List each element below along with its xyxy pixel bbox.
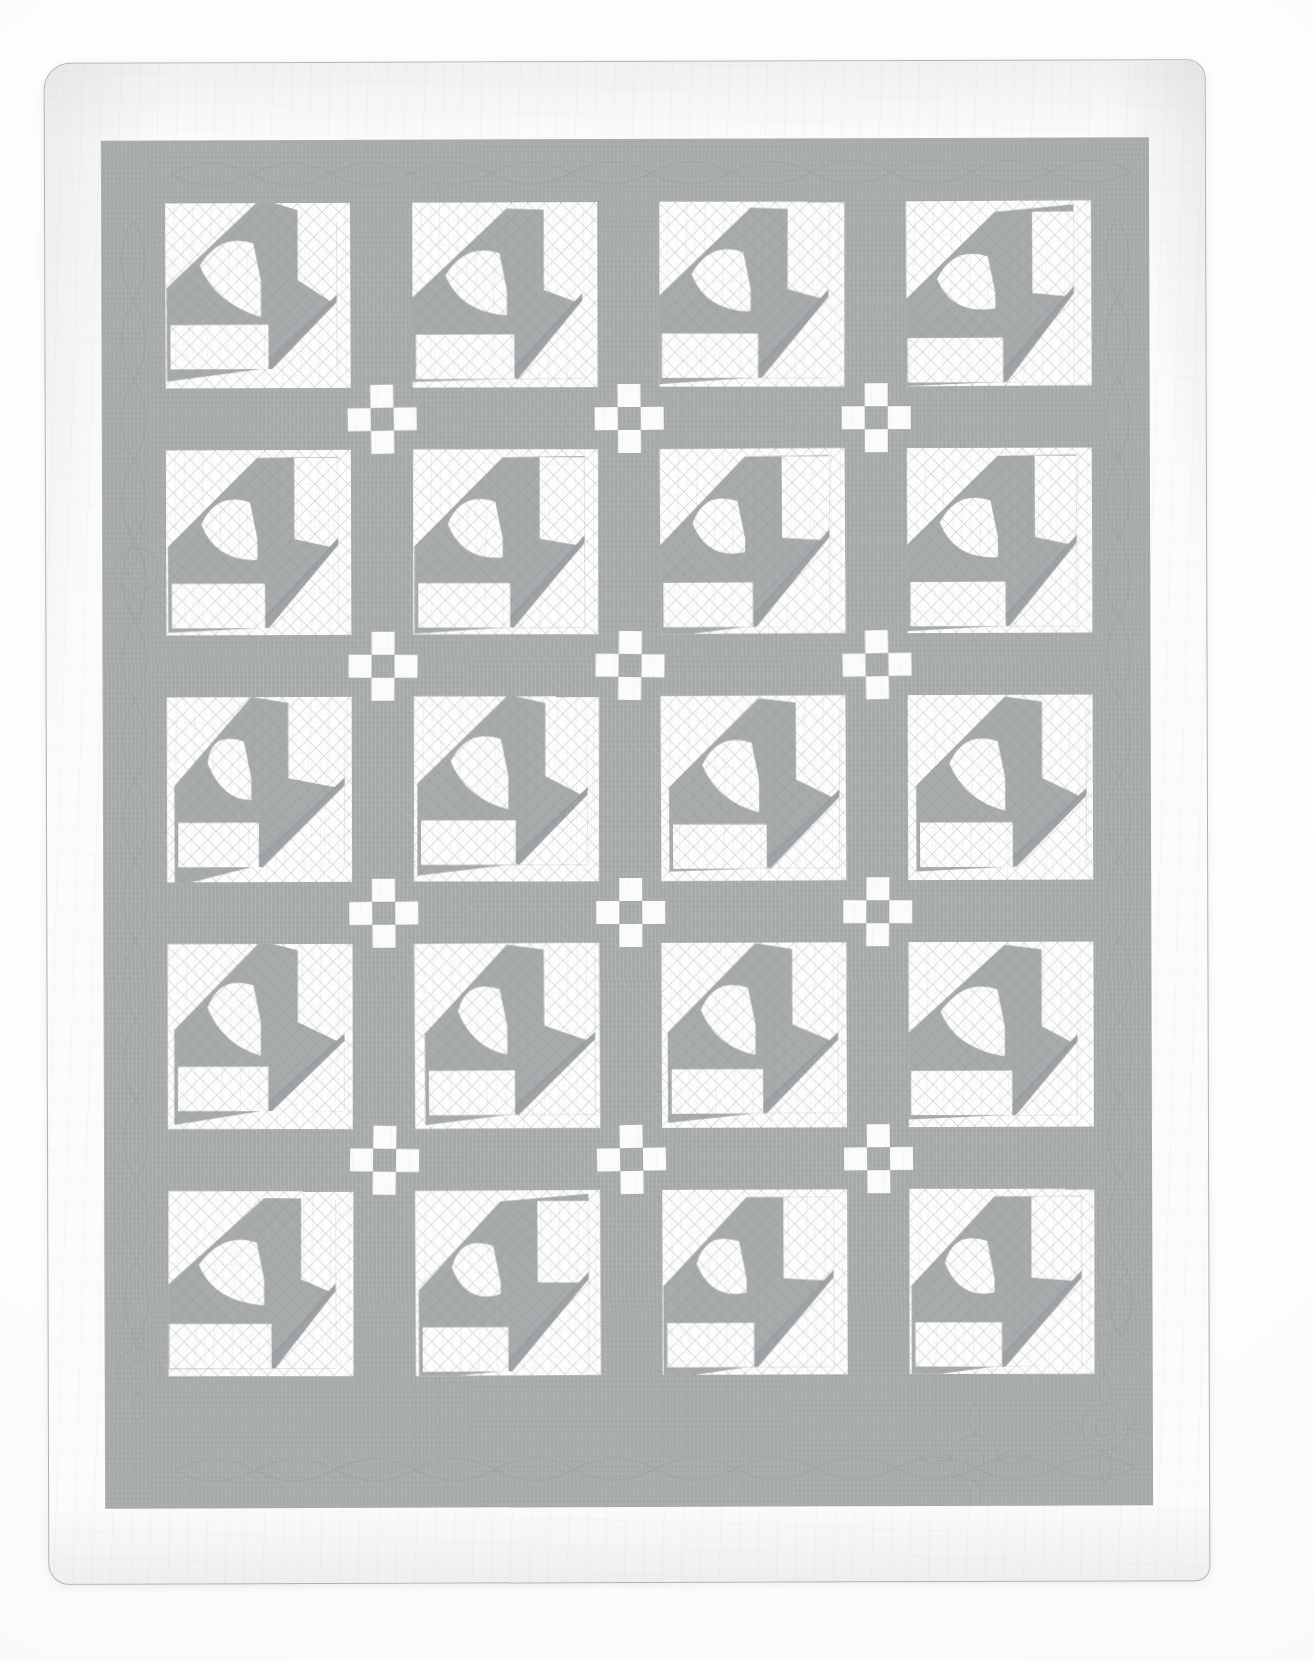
patch-top xyxy=(370,384,393,407)
patch-right xyxy=(395,1148,418,1171)
patch-top xyxy=(864,383,887,406)
white-foot-bar xyxy=(429,1070,515,1115)
basket-motif xyxy=(906,200,1092,386)
basket-block xyxy=(662,1189,848,1375)
patch-bottom xyxy=(864,429,887,452)
patch-left xyxy=(596,901,619,924)
basket-motif xyxy=(660,695,846,881)
patch-right xyxy=(889,1146,912,1169)
patch-bottom xyxy=(866,923,889,946)
basket-block xyxy=(906,200,1092,386)
basket-motif xyxy=(660,448,846,634)
basket-block xyxy=(167,697,352,882)
basket-block xyxy=(168,944,353,1129)
patch-left xyxy=(347,408,370,431)
patch-right xyxy=(640,406,663,429)
white-foot-bar xyxy=(908,338,1004,383)
nine-patch-cross xyxy=(348,878,418,948)
basket-block xyxy=(414,696,599,881)
basket-block xyxy=(909,1189,1094,1374)
basket-block xyxy=(415,1190,601,1376)
basket-block xyxy=(168,1191,353,1376)
basket-block xyxy=(165,203,351,389)
basket-motif xyxy=(412,202,597,387)
patch-left xyxy=(349,901,372,924)
basket-block xyxy=(661,942,847,1128)
block-grid xyxy=(101,137,1153,1508)
patch-bottom xyxy=(370,430,393,453)
patch-right xyxy=(889,900,912,923)
basket-motif xyxy=(659,202,844,387)
white-foot-bar xyxy=(663,582,753,627)
patch-bottom xyxy=(619,923,642,946)
nine-patch-cross xyxy=(594,383,664,453)
basket-motif xyxy=(907,447,1093,633)
patch-bottom xyxy=(865,675,888,698)
white-foot-bar xyxy=(920,822,1013,867)
basket-motif xyxy=(414,943,600,1129)
quilt-body xyxy=(45,60,1210,1584)
gray-pieced-field xyxy=(101,137,1153,1508)
patch-bottom xyxy=(867,1170,890,1193)
basket-motif xyxy=(414,696,599,881)
basket-motif xyxy=(413,449,598,634)
patch-top xyxy=(866,877,889,900)
basket-block xyxy=(414,943,600,1129)
patch-top xyxy=(864,629,887,652)
patch-right xyxy=(395,901,418,924)
patch-top xyxy=(619,877,642,900)
patch-left xyxy=(349,1148,372,1171)
white-foot-bar xyxy=(910,582,1005,627)
basket-block xyxy=(413,449,598,634)
patch-left xyxy=(841,406,864,429)
basket-block xyxy=(907,447,1093,633)
patch-bottom xyxy=(620,1170,643,1193)
patch-top xyxy=(373,1125,396,1148)
basket-motif xyxy=(908,695,1094,881)
basket-block xyxy=(660,695,846,881)
patch-bottom xyxy=(617,429,640,452)
white-foot-bar xyxy=(418,583,510,627)
patch-top xyxy=(619,1124,642,1147)
patch-right xyxy=(642,900,665,923)
patch-right xyxy=(642,1147,665,1170)
patch-left xyxy=(843,900,866,923)
patch-bottom xyxy=(618,676,641,699)
basket-motif xyxy=(168,1191,353,1376)
basket-motif xyxy=(909,1189,1094,1374)
patch-right xyxy=(393,407,416,430)
patch-bottom xyxy=(371,677,394,700)
nine-patch-cross xyxy=(596,1124,666,1194)
basket-motif xyxy=(662,1189,848,1375)
basket-block xyxy=(166,450,352,636)
patch-bottom xyxy=(372,1171,395,1194)
white-foot-bar xyxy=(911,1071,1012,1116)
patch-left xyxy=(842,653,865,676)
basket-motif xyxy=(167,697,352,882)
basket-block xyxy=(660,448,846,634)
patch-right xyxy=(887,406,910,429)
basket-motif xyxy=(661,942,847,1128)
basket-motif xyxy=(908,942,1093,1127)
basket-motif xyxy=(165,203,351,389)
basket-motif xyxy=(415,1190,601,1376)
patch-right xyxy=(641,654,664,677)
patch-left xyxy=(348,654,371,677)
patch-left xyxy=(843,1147,866,1170)
patch-left xyxy=(596,1148,619,1171)
nine-patch-cross xyxy=(843,1123,913,1193)
patch-top xyxy=(371,631,394,654)
patch-top xyxy=(371,878,394,901)
patch-top xyxy=(617,383,640,406)
nine-patch-cross xyxy=(349,1125,419,1195)
nine-patch-cross xyxy=(347,384,417,454)
white-bar-upper-right xyxy=(544,209,583,305)
nine-patch-cross xyxy=(596,877,665,946)
white-foot-bar xyxy=(673,824,767,869)
patch-right xyxy=(888,652,911,675)
basket-block xyxy=(659,202,844,387)
basket-motif xyxy=(166,450,352,636)
nine-patch-cross xyxy=(348,631,417,700)
basket-block xyxy=(908,942,1093,1127)
white-foot-bar xyxy=(423,1327,509,1372)
